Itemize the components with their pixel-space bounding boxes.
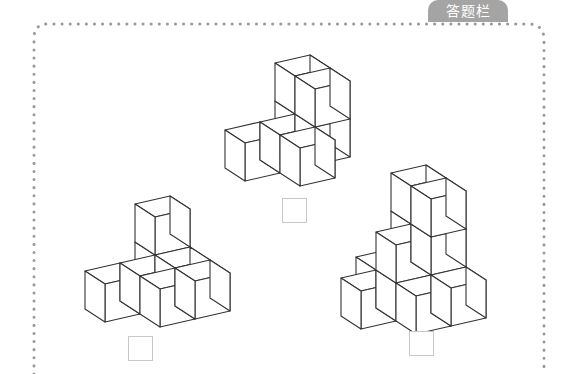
cube [135,196,190,255]
cube [431,267,486,326]
figure-bottom-left [85,196,230,327]
answer-box-bottom-left[interactable] [128,336,153,361]
cube [175,260,230,319]
figure-bottom-right [341,165,486,334]
answer-box-top[interactable] [282,198,307,223]
answer-box-bottom-right[interactable] [409,331,434,356]
figure-top [225,55,350,186]
cube [295,68,350,127]
cube [411,178,466,237]
cube-figures [0,0,574,374]
cube [280,127,335,186]
